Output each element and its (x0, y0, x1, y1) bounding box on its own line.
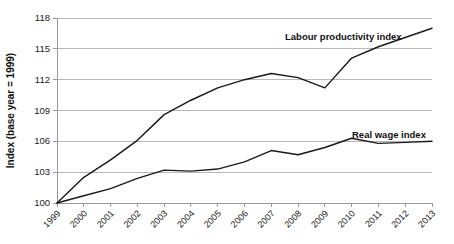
y-axis-tick-label: 103 (34, 166, 50, 177)
y-axis-tick-label: 118 (35, 12, 50, 23)
x-axis-tick-label: 2006 (229, 208, 250, 229)
series-annotation-labour-productivity: Labour productivity index (285, 31, 402, 42)
y-axis-title: Index (base year = 1999) (5, 53, 16, 168)
x-axis-tick-label: 2013 (416, 208, 437, 229)
x-axis-tick-label: 2003 (148, 208, 169, 229)
y-axis-tick-label: 109 (34, 105, 50, 116)
y-axis-tick-label: 106 (34, 135, 50, 146)
series-annotation-real-wage: Real wage index (352, 129, 427, 140)
x-axis-tick-label: 2010 (336, 208, 357, 229)
x-axis-tick-label: 2004 (175, 208, 196, 229)
y-axis-tick-label: 112 (35, 74, 50, 85)
x-axis-tick-label: 2001 (95, 208, 116, 229)
x-axis-tick-label: 2000 (68, 208, 89, 229)
x-axis-tick-label: 2012 (389, 208, 410, 229)
x-axis-tick-label: 2007 (255, 208, 276, 229)
x-axis-tick-label: 2009 (309, 208, 330, 229)
y-axis-tick-label: 115 (35, 43, 50, 54)
x-axis-tick-label: 2011 (363, 208, 384, 229)
x-axis-tick-label: 2008 (282, 208, 303, 229)
y-axis-tick-label: 100 (34, 197, 50, 208)
chart-container: 1001031061091121151181999200020012002200… (0, 0, 454, 244)
series-line-labour-productivity (57, 28, 432, 203)
x-axis-tick-label: 2002 (122, 208, 143, 229)
line-chart: 1001031061091121151181999200020012002200… (0, 0, 454, 244)
series-line-real-wage (57, 138, 432, 203)
x-axis-tick-label: 1999 (41, 208, 62, 229)
x-axis-tick-label: 2005 (202, 208, 223, 229)
